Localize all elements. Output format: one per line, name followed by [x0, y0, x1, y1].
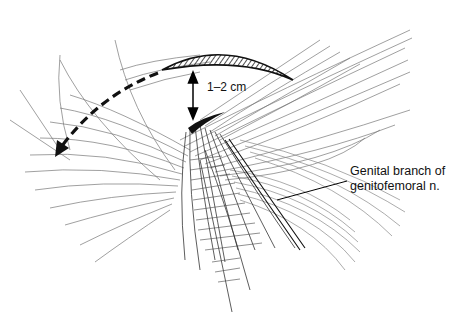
incision-crescent [162, 55, 293, 80]
leader-line [277, 181, 347, 200]
measurement-label: 1–2 cm [207, 80, 246, 94]
nerve-label-line1: Genital branch of [350, 164, 445, 179]
double-arrow-icon [189, 72, 198, 119]
nerve-label-line2: genitofemoral n. [350, 179, 440, 194]
anatomical-illustration: 1–2 cm Genital branch of genitofemoral n… [0, 0, 454, 332]
fibers-left [10, 40, 210, 262]
fibers-lower-right [230, 140, 405, 270]
fibers-upper-right [180, 30, 412, 180]
